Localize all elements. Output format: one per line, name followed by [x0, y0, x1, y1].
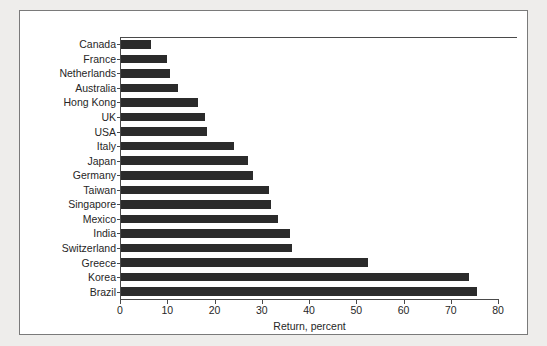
- bar: [121, 200, 271, 209]
- x-axis-tick-label: 0: [117, 305, 123, 316]
- bar-row: Mexico: [121, 212, 499, 227]
- bar: [121, 127, 207, 136]
- bar: [121, 287, 477, 296]
- bar: [121, 171, 253, 180]
- bar-row: UK: [121, 110, 499, 125]
- x-axis-tick-label: 50: [350, 305, 362, 316]
- bar: [121, 113, 205, 122]
- bar: [121, 244, 292, 253]
- bar: [121, 258, 368, 267]
- category-label: Netherlands: [59, 68, 116, 79]
- category-label: Canada: [79, 39, 116, 50]
- bar: [121, 273, 469, 282]
- bar-row: Germany: [121, 168, 499, 183]
- bar-row: Canada: [121, 37, 499, 52]
- x-axis-tick-label: 70: [445, 305, 457, 316]
- bar: [121, 84, 178, 93]
- category-label: Korea: [88, 272, 116, 283]
- category-label: UK: [101, 112, 116, 123]
- x-axis-tick-label: 80: [492, 305, 504, 316]
- x-axis-tick-label: 20: [209, 305, 221, 316]
- bar-row: Korea: [121, 270, 499, 285]
- category-label: Hong Kong: [63, 97, 116, 108]
- bar-row: Singapore: [121, 197, 499, 212]
- x-axis-title: Return, percent: [120, 321, 499, 332]
- plot-area: CanadaFranceNetherlandsAustraliaHong Kon…: [121, 37, 499, 299]
- bar: [121, 40, 151, 49]
- x-axis-tick-label: 10: [161, 305, 173, 316]
- category-label: Switzerland: [62, 243, 116, 254]
- bar-row: Italy: [121, 139, 499, 154]
- bar-row: Taiwan: [121, 183, 499, 198]
- bar-row: USA: [121, 124, 499, 139]
- bar: [121, 156, 248, 165]
- bar: [121, 55, 167, 64]
- bar-row: Brazil: [121, 284, 499, 299]
- category-label: Germany: [73, 170, 116, 181]
- x-axis-tick-label: 30: [256, 305, 268, 316]
- category-label: Taiwan: [83, 185, 116, 196]
- x-axis-tick-label: 40: [303, 305, 315, 316]
- category-label: India: [93, 228, 116, 239]
- category-label: USA: [94, 126, 116, 137]
- category-label: France: [83, 54, 116, 65]
- x-axis-tick-label: 60: [398, 305, 410, 316]
- bar-row: India: [121, 226, 499, 241]
- bar-row: Hong Kong: [121, 95, 499, 110]
- bar: [121, 229, 290, 238]
- bar: [121, 215, 278, 224]
- bar-row: Greece: [121, 255, 499, 270]
- bar: [121, 98, 198, 107]
- category-label: Mexico: [83, 214, 116, 225]
- category-label: Singapore: [68, 199, 116, 210]
- category-label: Brazil: [90, 286, 116, 297]
- bar: [121, 186, 269, 195]
- category-label: Australia: [75, 83, 116, 94]
- bar-row: Netherlands: [121, 66, 499, 81]
- bar-row: Switzerland: [121, 241, 499, 256]
- category-label: Italy: [97, 141, 116, 152]
- category-label: Japan: [87, 155, 116, 166]
- bar: [121, 142, 234, 151]
- bar-row: France: [121, 52, 499, 67]
- bar: [121, 69, 170, 78]
- figure-frame: CanadaFranceNetherlandsAustraliaHong Kon…: [19, 10, 528, 335]
- bar-row: Australia: [121, 81, 499, 96]
- figure-root: CanadaFranceNetherlandsAustraliaHong Kon…: [0, 0, 547, 346]
- category-label: Greece: [82, 257, 116, 268]
- bar-row: Japan: [121, 153, 499, 168]
